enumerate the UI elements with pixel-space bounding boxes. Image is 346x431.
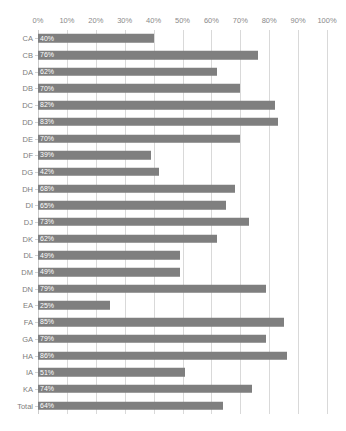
bar: 64%	[38, 401, 223, 410]
bar: 79%	[38, 285, 266, 294]
category-label: DF	[23, 151, 33, 160]
x-axis-tick-label: 70%	[233, 16, 248, 25]
plot-area: CA40%CB76%DA62%DB70%DC82%DD83%DE70%DF39%…	[38, 30, 327, 414]
x-axis-tick-label: 0%	[33, 16, 44, 25]
bar-value-label: 76%	[40, 52, 54, 59]
bar-value-label: 64%	[40, 402, 54, 409]
bar: 79%	[38, 335, 266, 344]
bar-value-label: 82%	[40, 102, 54, 109]
category-label: GA	[22, 334, 33, 343]
category-label: DA	[23, 67, 33, 76]
category-label: DE	[23, 134, 33, 143]
bar-value-label: 49%	[40, 252, 54, 259]
bar: 83%	[38, 118, 278, 127]
category-label: CB	[23, 51, 33, 60]
x-axis-tick-label: 40%	[146, 16, 161, 25]
bar-value-label: 73%	[40, 218, 54, 225]
chart-row: DE70%	[38, 130, 327, 147]
bar-value-label: 39%	[40, 152, 54, 159]
x-axis-tick-label: 60%	[204, 16, 219, 25]
chart-row: FA85%	[38, 314, 327, 331]
category-label: Total	[17, 401, 33, 410]
category-label: IA	[26, 368, 33, 377]
chart-row: DF39%	[38, 147, 327, 164]
bar-rows: CA40%CB76%DA62%DB70%DC82%DD83%DE70%DF39%…	[38, 30, 327, 414]
gridline	[327, 30, 328, 414]
chart-row: DL49%	[38, 247, 327, 264]
bar: 39%	[38, 151, 151, 160]
category-label: KA	[23, 384, 33, 393]
bar-value-label: 74%	[40, 385, 54, 392]
category-label: EA	[23, 301, 33, 310]
chart-row: DH68%	[38, 180, 327, 197]
category-label: DG	[22, 167, 33, 176]
chart-row: CB76%	[38, 47, 327, 64]
bar: 25%	[38, 301, 110, 310]
category-label: DK	[23, 234, 33, 243]
bar: 85%	[38, 318, 284, 327]
chart-row: DK62%	[38, 230, 327, 247]
bar-value-label: 42%	[40, 168, 54, 175]
chart-row: DA62%	[38, 63, 327, 80]
bar: 73%	[38, 218, 249, 227]
x-axis-tick-label: 10%	[59, 16, 74, 25]
bar: 74%	[38, 385, 252, 394]
bar: 76%	[38, 51, 258, 60]
category-label: DM	[21, 268, 33, 277]
x-axis-tick-label: 90%	[291, 16, 306, 25]
chart-row: EA25%	[38, 297, 327, 314]
bar: 49%	[38, 251, 180, 260]
x-axis-tick-label: 20%	[88, 16, 103, 25]
x-axis-tick-label: 100%	[317, 16, 336, 25]
category-label: DC	[22, 101, 33, 110]
bar-value-label: 62%	[40, 68, 54, 75]
bar: 86%	[38, 351, 287, 360]
chart-row: DC82%	[38, 97, 327, 114]
bar-value-label: 86%	[40, 352, 54, 359]
horizontal-bar-chart: 0%10%20%30%40%50%60%70%80%90%100% CA40%C…	[0, 0, 346, 431]
x-axis-tick-labels: 0%10%20%30%40%50%60%70%80%90%100%	[38, 16, 327, 28]
bar-value-label: 62%	[40, 235, 54, 242]
category-label: DJ	[24, 217, 33, 226]
category-label: DI	[26, 201, 34, 210]
chart-row: DB70%	[38, 80, 327, 97]
bar-value-label: 51%	[40, 369, 54, 376]
chart-row: KA74%	[38, 381, 327, 398]
bar-value-label: 85%	[40, 319, 54, 326]
chart-row: DG42%	[38, 164, 327, 181]
bar: 62%	[38, 67, 217, 76]
chart-row: DJ73%	[38, 214, 327, 231]
bar: 49%	[38, 268, 180, 277]
x-axis-tick-label: 80%	[262, 16, 277, 25]
category-label: DH	[22, 184, 33, 193]
bar: 42%	[38, 168, 159, 177]
bar-value-label: 70%	[40, 135, 54, 142]
chart-row: CA40%	[38, 30, 327, 47]
category-label: CA	[23, 34, 33, 43]
category-label: DB	[23, 84, 33, 93]
bar: 70%	[38, 134, 240, 143]
bar: 51%	[38, 368, 185, 377]
bar-value-label: 40%	[40, 35, 54, 42]
bar-value-label: 65%	[40, 202, 54, 209]
chart-row: DM49%	[38, 264, 327, 281]
chart-row: Total64%	[38, 397, 327, 414]
bar-value-label: 79%	[40, 335, 54, 342]
bar: 62%	[38, 234, 217, 243]
category-label: DN	[22, 284, 33, 293]
bar: 70%	[38, 84, 240, 93]
chart-row: DN79%	[38, 280, 327, 297]
chart-row: DI65%	[38, 197, 327, 214]
bar-value-label: 79%	[40, 285, 54, 292]
chart-row: GA79%	[38, 331, 327, 348]
bar: 65%	[38, 201, 226, 210]
bar: 82%	[38, 101, 275, 110]
bar: 68%	[38, 184, 235, 193]
bar-value-label: 25%	[40, 302, 54, 309]
chart-row: DD83%	[38, 113, 327, 130]
category-label: HA	[23, 351, 33, 360]
category-label: DD	[22, 117, 33, 126]
bar: 40%	[38, 34, 154, 43]
x-axis-tick-label: 30%	[117, 16, 132, 25]
bar-value-label: 49%	[40, 269, 54, 276]
